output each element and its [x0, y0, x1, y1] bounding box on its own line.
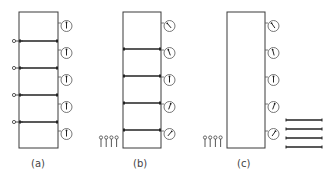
gauge-needle-tip: [167, 49, 169, 51]
partition-clip: [123, 48, 125, 51]
column-c: [227, 12, 265, 148]
gauge-needle-tip: [166, 22, 168, 24]
gauge-needle-tip: [271, 22, 273, 24]
partition-clip: [159, 129, 161, 132]
valve-icon: [12, 39, 15, 42]
pins-b: [99, 136, 118, 147]
panel-b: (b): [99, 12, 175, 169]
gauges-c: [265, 21, 279, 140]
partitions-a: [19, 40, 58, 124]
partition-clip: [56, 94, 58, 97]
panel-label-b: (b): [133, 158, 147, 169]
partition-clip: [56, 40, 58, 43]
gauge-needle-tip: [66, 22, 68, 24]
partition-clip: [123, 75, 125, 78]
pin-icon: [105, 136, 108, 139]
valve-icon: [12, 120, 15, 123]
valve-icon: [12, 66, 15, 69]
pin-icon: [115, 136, 118, 139]
partition-clip: [123, 129, 125, 132]
partitions-b: [123, 48, 161, 132]
gauges-b: [161, 21, 175, 140]
partition-clip: [159, 102, 161, 105]
panel-label-a: (a): [31, 158, 45, 169]
rods-c: [286, 119, 322, 149]
partition-clip: [56, 67, 58, 70]
partition-clip: [123, 102, 125, 105]
pin-icon: [203, 136, 206, 139]
gauge-needle-tip: [66, 49, 68, 51]
valve-icon: [12, 93, 15, 96]
gauge-needle-tip: [170, 103, 172, 105]
pin-icon: [219, 136, 222, 139]
pins-c: [203, 136, 222, 147]
valves-a: [12, 39, 23, 123]
gauge-needle-tip: [275, 130, 277, 132]
column-b: [123, 12, 161, 148]
panel-label-c: (c): [237, 158, 250, 169]
gauge-needle-tip: [66, 76, 68, 78]
gauge-needle-tip: [66, 103, 68, 105]
pin-icon: [110, 136, 113, 139]
pin-icon: [209, 136, 212, 139]
column-a: [19, 12, 58, 148]
partition-clip: [159, 48, 161, 51]
gauge-needle-tip: [273, 76, 275, 78]
gauge-needle-tip: [171, 130, 173, 132]
pin-icon: [214, 136, 217, 139]
partition-clip: [159, 75, 161, 78]
pin-icon: [99, 136, 102, 139]
gauge-needle-tip: [272, 49, 274, 51]
panel-c: (c): [203, 12, 322, 169]
gauge-needle-tip: [66, 130, 68, 132]
apparatus-diagram: (a) (b) (c): [0, 0, 331, 179]
gauge-needle-tip: [274, 103, 276, 105]
partition-clip: [56, 121, 58, 124]
panel-a: (a): [12, 12, 72, 169]
gauges-a: [58, 21, 72, 140]
gauge-needle-tip: [169, 76, 171, 78]
